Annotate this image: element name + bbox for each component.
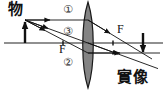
ray-2-label: ②	[63, 57, 73, 68]
ray-3-label: ③	[63, 26, 73, 37]
focal-point-right-label: F	[117, 23, 124, 35]
focal-point-left-label: F	[59, 43, 66, 55]
convex-lens	[83, 2, 94, 88]
object-label: 物	[8, 2, 23, 17]
ray-2-incident-arrowhead	[25, 20, 45, 31]
ray-3-incident-arrowhead	[25, 20, 48, 28]
optics-ray-diagram: 物 實像 F F ① ③ ②	[0, 0, 167, 91]
ray-1-label: ①	[63, 4, 73, 15]
image-label: 實像	[117, 70, 149, 85]
